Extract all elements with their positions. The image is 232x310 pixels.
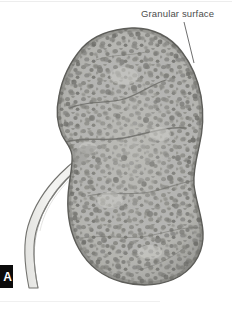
- kidney-illustration: [0, 0, 232, 310]
- bottom-rule-divider: [0, 301, 160, 302]
- panel-marker-a: A: [0, 265, 13, 288]
- annotation-label-granular-surface: Granular surface: [141, 8, 214, 20]
- figure-panel-a: Granular surface A: [0, 0, 232, 310]
- kidney-shape: [50, 20, 215, 295]
